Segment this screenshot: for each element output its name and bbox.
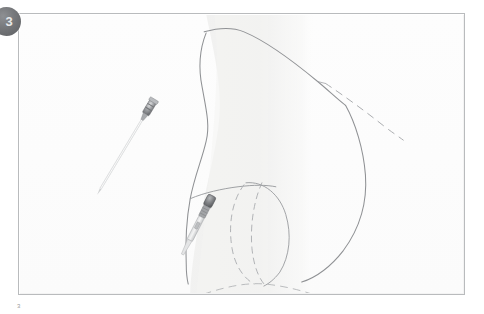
surgical-illustration [19, 14, 464, 294]
step-number-badge-label: 3 [1, 7, 17, 36]
caption-fragment: 3 [17, 303, 21, 309]
syringe-needle-tip [96, 188, 101, 195]
holder-tip [180, 239, 192, 255]
figure-frame [18, 13, 465, 295]
